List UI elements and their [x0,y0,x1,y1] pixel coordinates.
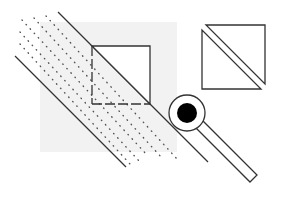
grey-background-square [40,22,177,152]
bar-handle [194,119,257,182]
black-dot [177,103,197,123]
diagram-canvas [0,0,281,202]
split-square [202,25,265,89]
